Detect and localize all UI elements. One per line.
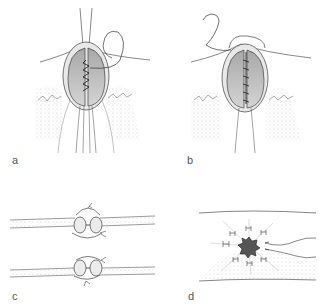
panel-c-drawing [0,153,161,306]
panel-a-drawing [0,0,161,153]
panel-b-drawing [161,0,322,153]
panel-d: d [161,153,322,306]
surgical-figure: a b [0,0,322,306]
panel-label-c: c [12,291,18,302]
panel-b: b [161,0,322,153]
panel-c: c [0,153,161,306]
panel-label-d: d [188,291,194,302]
panel-d-drawing [161,153,322,306]
panel-a: a [0,0,161,153]
